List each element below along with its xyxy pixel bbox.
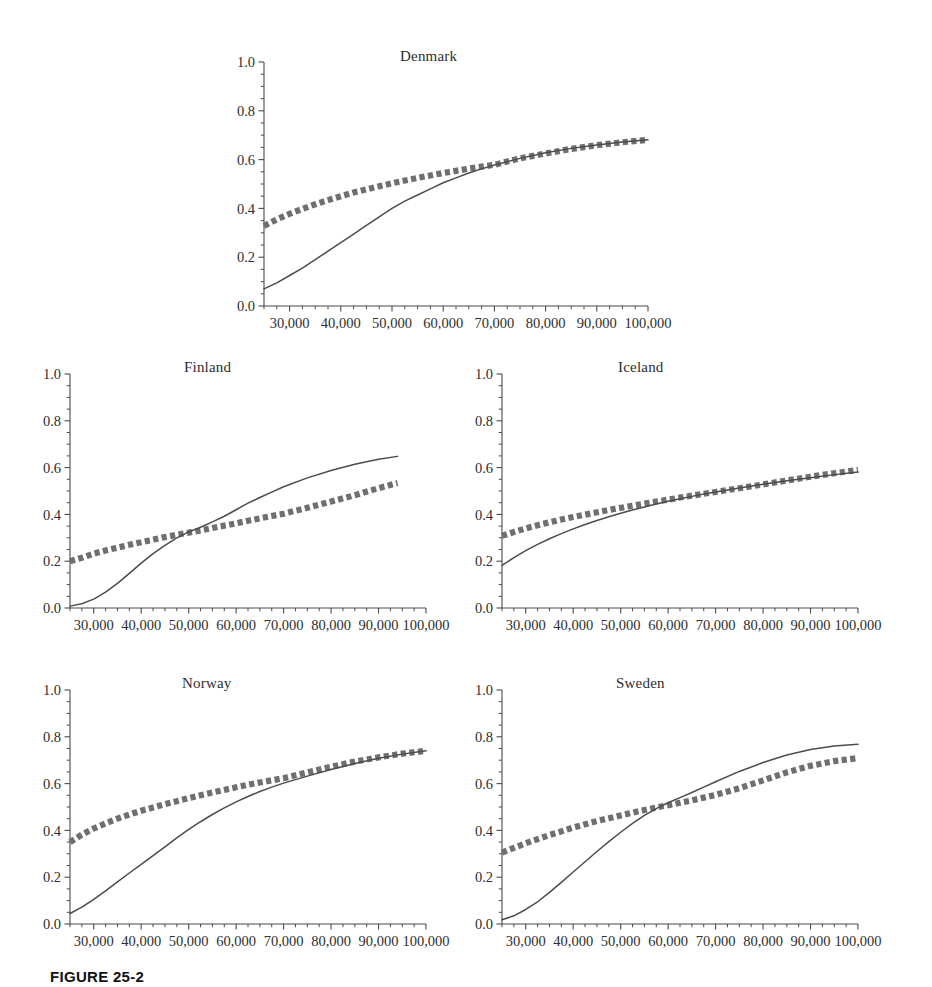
svg-text:100,000: 100,000 [402, 933, 449, 949]
figure-caption: FIGURE 25-2 [50, 968, 144, 985]
svg-text:30,000: 30,000 [270, 315, 310, 331]
svg-text:40,000: 40,000 [321, 315, 361, 331]
panel-iceland: Iceland 0.00.20.40.60.81.030,00040,00050… [466, 356, 866, 636]
svg-text:60,000: 60,000 [423, 315, 463, 331]
svg-text:30,000: 30,000 [74, 933, 114, 949]
series-solid [264, 140, 648, 289]
svg-text:70,000: 70,000 [264, 933, 304, 949]
svg-text:50,000: 50,000 [169, 617, 209, 633]
series-dotted [502, 470, 858, 536]
svg-text:0.2: 0.2 [475, 869, 493, 885]
svg-text:0.4: 0.4 [475, 823, 494, 839]
svg-text:50,000: 50,000 [372, 315, 412, 331]
figure-container: Denmark 0.00.20.40.60.81.030,00040,00050… [0, 0, 932, 987]
svg-text:0.6: 0.6 [237, 152, 255, 168]
svg-text:0.8: 0.8 [475, 729, 493, 745]
svg-text:0.6: 0.6 [475, 460, 493, 476]
svg-text:0.8: 0.8 [43, 413, 61, 429]
svg-text:0.2: 0.2 [43, 553, 61, 569]
svg-text:0.4: 0.4 [475, 507, 494, 523]
series-dotted [264, 140, 648, 226]
svg-text:60,000: 60,000 [648, 933, 688, 949]
series-solid [70, 456, 398, 606]
svg-text:0.2: 0.2 [43, 869, 61, 885]
svg-text:90,000: 90,000 [359, 933, 399, 949]
svg-text:100,000: 100,000 [624, 315, 671, 331]
panel-title-iceland: Iceland [618, 359, 664, 376]
svg-text:80,000: 80,000 [743, 617, 783, 633]
svg-text:80,000: 80,000 [526, 315, 566, 331]
series-solid [70, 751, 426, 914]
svg-text:1.0: 1.0 [43, 682, 61, 698]
series-dotted [502, 758, 858, 853]
plot-iceland: 0.00.20.40.60.81.030,00040,00050,00060,0… [466, 356, 866, 636]
svg-text:50,000: 50,000 [601, 933, 641, 949]
panel-title-norway: Norway [182, 675, 232, 692]
panel-sweden: Sweden 0.00.20.40.60.81.030,00040,00050,… [466, 672, 866, 952]
svg-text:50,000: 50,000 [169, 933, 209, 949]
plot-sweden: 0.00.20.40.60.81.030,00040,00050,00060,0… [466, 672, 866, 952]
svg-text:0.8: 0.8 [237, 103, 255, 119]
svg-text:90,000: 90,000 [791, 933, 831, 949]
plot-denmark: 0.00.20.40.60.81.030,00040,00050,00060,0… [228, 44, 678, 334]
svg-text:1.0: 1.0 [237, 54, 255, 70]
svg-text:0.2: 0.2 [475, 553, 493, 569]
svg-text:60,000: 60,000 [216, 617, 256, 633]
svg-text:0.4: 0.4 [43, 823, 62, 839]
svg-text:0.0: 0.0 [237, 298, 255, 314]
svg-text:0.0: 0.0 [475, 600, 493, 616]
svg-text:0.0: 0.0 [475, 916, 493, 932]
panel-denmark: Denmark 0.00.20.40.60.81.030,00040,00050… [228, 44, 678, 334]
svg-text:0.8: 0.8 [475, 413, 493, 429]
svg-text:40,000: 40,000 [553, 617, 593, 633]
svg-text:100,000: 100,000 [834, 617, 881, 633]
svg-text:30,000: 30,000 [74, 617, 114, 633]
svg-text:60,000: 60,000 [216, 933, 256, 949]
svg-text:0.6: 0.6 [475, 776, 493, 792]
svg-text:80,000: 80,000 [311, 617, 351, 633]
svg-text:0.6: 0.6 [43, 776, 61, 792]
svg-text:1.0: 1.0 [475, 682, 493, 698]
svg-text:40,000: 40,000 [553, 933, 593, 949]
svg-text:30,000: 30,000 [506, 617, 546, 633]
plot-finland: 0.00.20.40.60.81.030,00040,00050,00060,0… [34, 356, 434, 636]
svg-text:90,000: 90,000 [359, 617, 399, 633]
svg-text:0.4: 0.4 [237, 201, 256, 217]
svg-text:100,000: 100,000 [834, 933, 881, 949]
svg-text:80,000: 80,000 [311, 933, 351, 949]
svg-text:0.8: 0.8 [43, 729, 61, 745]
svg-text:80,000: 80,000 [743, 933, 783, 949]
svg-text:40,000: 40,000 [121, 933, 161, 949]
svg-text:0.0: 0.0 [43, 600, 61, 616]
svg-text:40,000: 40,000 [121, 617, 161, 633]
svg-text:30,000: 30,000 [506, 933, 546, 949]
svg-text:0.2: 0.2 [237, 249, 255, 265]
svg-text:1.0: 1.0 [475, 366, 493, 382]
svg-text:0.6: 0.6 [43, 460, 61, 476]
svg-text:70,000: 70,000 [696, 933, 736, 949]
panel-finland: Finland 0.00.20.40.60.81.030,00040,00050… [34, 356, 434, 636]
series-dotted [70, 483, 398, 561]
svg-text:70,000: 70,000 [474, 315, 514, 331]
svg-text:90,000: 90,000 [577, 315, 617, 331]
panel-norway: Norway 0.00.20.40.60.81.030,00040,00050,… [34, 672, 434, 952]
panel-title-sweden: Sweden [616, 675, 665, 692]
svg-text:60,000: 60,000 [648, 617, 688, 633]
svg-text:70,000: 70,000 [696, 617, 736, 633]
svg-text:70,000: 70,000 [264, 617, 304, 633]
panel-title-denmark: Denmark [400, 48, 457, 65]
svg-text:90,000: 90,000 [791, 617, 831, 633]
panel-title-finland: Finland [184, 359, 231, 376]
svg-text:0.0: 0.0 [43, 916, 61, 932]
svg-text:50,000: 50,000 [601, 617, 641, 633]
svg-text:100,000: 100,000 [402, 617, 449, 633]
svg-text:1.0: 1.0 [43, 366, 61, 382]
plot-norway: 0.00.20.40.60.81.030,00040,00050,00060,0… [34, 672, 434, 952]
svg-text:0.4: 0.4 [43, 507, 62, 523]
